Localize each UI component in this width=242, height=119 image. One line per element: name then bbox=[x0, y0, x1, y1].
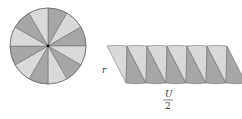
sectored-circle bbox=[10, 8, 86, 84]
diagram-canvas: r U 2 bbox=[0, 0, 242, 119]
radius-label: r bbox=[102, 65, 107, 75]
circumference-numerator-label: U bbox=[165, 89, 173, 99]
circumference-denominator-label: 2 bbox=[165, 101, 171, 111]
dark-wedge bbox=[226, 46, 242, 84]
light-wedge bbox=[107, 45, 127, 83]
rearranged-sectors-strip bbox=[107, 45, 242, 84]
circle-center-point bbox=[47, 45, 50, 48]
